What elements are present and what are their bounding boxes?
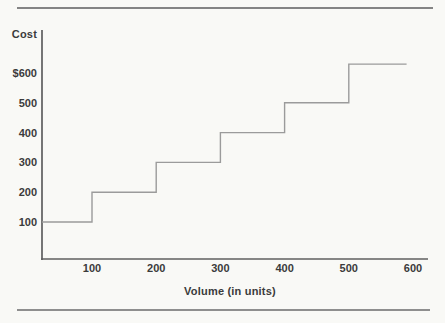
x-tick-label: 100 <box>83 262 101 274</box>
step-cost-line <box>42 64 407 222</box>
x-tick-label: 600 <box>404 262 422 274</box>
y-tick-label: 400 <box>19 127 37 139</box>
x-tick-label: 500 <box>340 262 358 274</box>
y-tick-label: 300 <box>19 156 37 168</box>
y-tick-label: 500 <box>19 97 37 109</box>
x-tick-label: 300 <box>211 262 229 274</box>
y-tick-label: $600 <box>13 67 37 79</box>
page: { "chart_data": { "type": "line", "line_… <box>0 0 445 323</box>
step-cost-chart: 100200300400500600$600500400300200100 <box>0 0 445 323</box>
x-tick-label: 200 <box>147 262 165 274</box>
y-tick-label: 100 <box>19 216 37 228</box>
y-tick-label: 200 <box>19 186 37 198</box>
x-tick-label: 400 <box>275 262 293 274</box>
